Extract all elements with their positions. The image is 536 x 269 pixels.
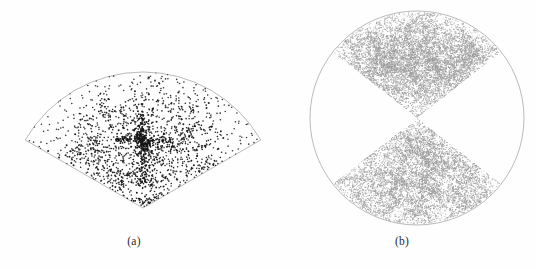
figure-container: (a) (b) xyxy=(0,0,536,269)
panel-a-caption: (a) xyxy=(0,235,268,247)
panel-a: (a) xyxy=(0,0,268,269)
panel-b: (b) xyxy=(268,0,536,269)
wedge-slice-scatter-plot xyxy=(0,0,268,269)
panel-b-caption: (b) xyxy=(268,235,536,247)
circular-bowtie-scatter-plot xyxy=(268,0,536,269)
